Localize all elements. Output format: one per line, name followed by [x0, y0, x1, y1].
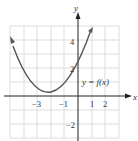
tick-x-2: 2: [103, 99, 107, 109]
curve-label: y = f(x): [81, 77, 109, 87]
tick-x-neg3: −3: [32, 99, 41, 109]
tick-x-neg1: −1: [59, 99, 68, 109]
tick-y-2: 2: [70, 64, 74, 74]
tick-y-4: 4: [70, 37, 75, 47]
x-axis-label: x: [132, 92, 137, 102]
chart: y x y = f(x) −3 −1 1 2 4 2 −2: [0, 0, 138, 141]
parabola-curve: [13, 30, 91, 92]
tick-y-neg2: −2: [66, 120, 75, 130]
x-axis: [4, 94, 132, 99]
y-axis: [76, 12, 81, 141]
tick-x-1: 1: [90, 99, 94, 109]
y-axis-label: y: [73, 3, 78, 13]
